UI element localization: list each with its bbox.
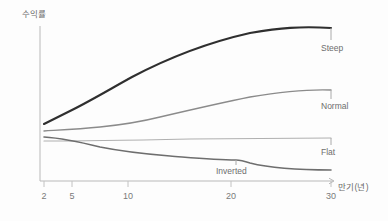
y-axis-title: 수익률 xyxy=(22,10,47,19)
series-label-inverted: Inverted xyxy=(216,167,247,176)
x-tick-label-2: 2 xyxy=(41,192,46,201)
x-tick-label-30: 30 xyxy=(326,192,336,201)
series-label-steep: Steep xyxy=(321,44,343,53)
series-line-inverted xyxy=(44,137,331,170)
series-line-steep xyxy=(44,27,331,124)
series-line-flat xyxy=(44,138,331,141)
series-label-flat: Flat xyxy=(321,148,335,157)
x-tick-label-20: 20 xyxy=(226,192,236,201)
x-tick-label-10: 10 xyxy=(123,192,133,201)
series-label-normal: Normal xyxy=(321,102,348,111)
x-axis-title: 만기(년) xyxy=(338,183,369,192)
series-line-normal xyxy=(44,90,331,131)
x-tick-label-5: 5 xyxy=(69,192,74,201)
yield-curve-chart: 수익률 만기(년) 2 5 10 20 30 Steep Normal Flat… xyxy=(0,0,388,221)
